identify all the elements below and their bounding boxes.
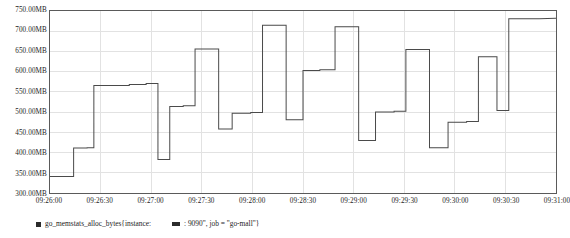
x-axis-tick-label: 09:31:00 [544,197,570,206]
x-axis-tick-label: 09:28:30 [290,197,316,206]
chart-legend: go_memstats_alloc_bytes{instance: : 9090… [0,216,570,234]
x-axis-tick-label: 09:28:00 [239,197,265,206]
legend-item-label: : 9090", job = "go-mall"} [184,219,259,229]
y-axis-tick-label: 550.00MB [15,88,47,96]
y-axis-tick-label: 500.00MB [15,108,47,116]
x-axis-tick-label: 09:30:30 [493,197,519,206]
y-axis-tick-label: 600.00MB [15,67,47,75]
legend-swatch-icon [172,222,180,226]
y-axis-tick-label: 450.00MB [15,129,47,137]
legend-item[interactable]: go_memstats_alloc_bytes{instance: [36,219,151,229]
legend-item[interactable]: : 9090", job = "go-mall"} [172,219,259,229]
x-axis-tick-label: 09:30:00 [442,197,468,206]
x-axis-tick-label: 09:27:00 [137,197,163,206]
y-axis-tick-label: 400.00MB [15,149,47,157]
series-lines [50,11,556,193]
plot-area [49,10,557,194]
y-axis-tick-label: 650.00MB [15,47,47,55]
legend-item-label: go_memstats_alloc_bytes{instance: [45,219,151,229]
y-axis-tick-label: 750.00MB [15,6,47,14]
y-axis-tick-label: 700.00MB [15,26,47,34]
x-axis-tick-label: 09:26:30 [87,197,113,206]
legend-swatch-icon [36,222,41,227]
memory-timeseries-chart: 750.00MB700.00MB650.00MB600.00MB550.00MB… [0,0,570,238]
x-axis-tick-label: 09:29:30 [391,197,417,206]
x-axis-tick-label: 09:29:00 [341,197,367,206]
x-axis-tick-label: 09:27:30 [188,197,214,206]
x-axis-tick-label: 09:26:00 [36,197,62,206]
y-axis-tick-label: 350.00MB [15,170,47,178]
